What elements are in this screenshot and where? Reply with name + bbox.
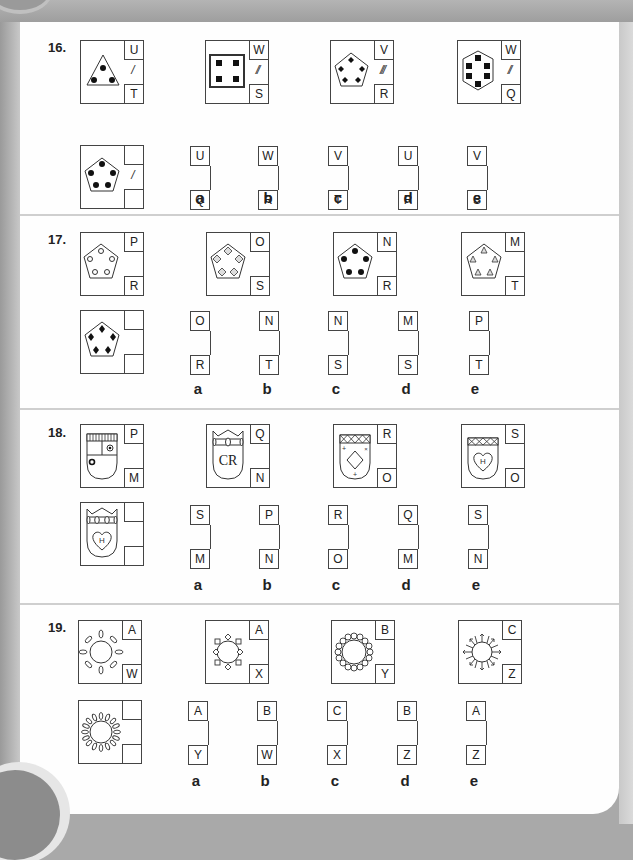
bottom-letter: N: [250, 468, 270, 488]
connector-line: [348, 331, 349, 355]
connector-line: [487, 166, 488, 190]
option-top-letter: P: [259, 505, 279, 525]
stroke-mark: //: [250, 63, 264, 77]
answer-option-e[interactable]: P T: [469, 311, 490, 375]
bottom-letter: W: [122, 664, 142, 684]
bottom-letter: Q: [501, 84, 521, 104]
option-bottom-letter: S: [328, 355, 348, 375]
target-figure: /: [80, 145, 144, 209]
section-divider: [20, 408, 619, 410]
answer-option-b[interactable]: N T: [259, 311, 280, 375]
connector-line: [277, 721, 278, 745]
connector-line: [348, 525, 349, 549]
missing-top-letter: [124, 502, 144, 522]
page-top-shadow: [0, 0, 633, 22]
question-figure: O S: [206, 232, 270, 296]
svg-text:+: +: [342, 445, 346, 452]
answer-option-a[interactable]: S M: [190, 505, 211, 569]
question-figure: U / T: [80, 40, 144, 104]
option-bottom-letter: T: [469, 355, 489, 375]
bottom-letter: Y: [375, 664, 395, 684]
option-bottom-letter: S: [398, 355, 418, 375]
bottom-letter: O: [505, 468, 525, 488]
missing-top-letter: [122, 700, 142, 720]
top-letter: W: [501, 40, 521, 60]
answer-option-b[interactable]: P N: [259, 505, 280, 569]
connector-line: [486, 721, 487, 745]
bottom-letter: Z: [502, 664, 522, 684]
option-label: a: [186, 772, 206, 789]
bottom-letter: T: [505, 276, 525, 296]
question-figure: P M: [80, 424, 144, 488]
question-number: 18.: [48, 425, 66, 440]
top-letter: U: [124, 40, 144, 60]
stroke-mark: /: [125, 63, 139, 77]
option-top-letter: O: [190, 311, 210, 331]
top-letter: Q: [250, 424, 270, 444]
question-figure: W // Q: [457, 40, 521, 104]
answer-option-d[interactable]: Q M: [398, 505, 419, 569]
option-top-letter: S: [190, 505, 210, 525]
question-figure: + × + R O: [333, 424, 397, 488]
connector-line: [278, 166, 279, 190]
option-bottom-letter: Z: [397, 745, 417, 765]
option-bottom-letter: Y: [188, 745, 208, 765]
option-label: a: [188, 576, 208, 593]
question-figure: H S O: [461, 424, 525, 488]
svg-text:+: +: [353, 471, 357, 478]
top-letter: P: [124, 232, 144, 252]
answer-option-e[interactable]: S N: [468, 505, 489, 569]
target-figure: [80, 310, 144, 374]
option-label: c: [326, 380, 346, 397]
bottom-letter: R: [377, 276, 397, 296]
answer-option-a[interactable]: O R: [190, 311, 211, 375]
worksheet-page: [20, 22, 619, 814]
top-letter: R: [377, 424, 397, 444]
answer-option-c[interactable]: N S: [328, 311, 349, 375]
option-bottom-letter: R: [190, 355, 210, 375]
section-divider: [20, 214, 619, 216]
answer-option-a[interactable]: A Y: [188, 701, 209, 765]
option-label: b: [258, 189, 278, 206]
option-bottom-letter: O: [328, 549, 348, 569]
option-top-letter: V: [467, 146, 487, 166]
stroke-mark: ///: [375, 63, 389, 77]
option-bottom-letter: M: [190, 549, 210, 569]
connector-line: [210, 166, 211, 190]
question-figure: A X: [205, 620, 269, 684]
option-bottom-letter: W: [257, 745, 277, 765]
option-label: e: [466, 576, 486, 593]
question-figure: W // S: [205, 40, 269, 104]
option-top-letter: M: [398, 311, 418, 331]
top-letter: W: [249, 40, 269, 60]
answer-option-d[interactable]: M S: [398, 311, 419, 375]
answer-option-d[interactable]: B Z: [397, 701, 418, 765]
option-label: c: [326, 576, 346, 593]
option-top-letter: R: [328, 505, 348, 525]
connector-line: [348, 166, 349, 190]
top-letter: O: [250, 232, 270, 252]
connector-line: [418, 166, 419, 190]
question-figure: M T: [461, 232, 525, 296]
option-label: d: [395, 772, 415, 789]
top-letter: A: [249, 620, 269, 640]
answer-option-c[interactable]: C X: [327, 701, 348, 765]
bottom-letter: R: [374, 84, 394, 104]
answer-option-e[interactable]: A Z: [466, 701, 487, 765]
answer-option-b[interactable]: B W: [257, 701, 278, 765]
missing-top-letter: [124, 145, 144, 165]
missing-top-letter: [124, 310, 144, 330]
option-label: d: [398, 189, 418, 206]
option-label: e: [464, 772, 484, 789]
missing-bottom-letter: [124, 546, 144, 566]
stroke-mark: //: [502, 63, 516, 77]
answer-option-c[interactable]: R O: [328, 505, 349, 569]
top-letter: S: [505, 424, 525, 444]
option-label: b: [257, 380, 277, 397]
connector-line: [210, 331, 211, 355]
option-label: d: [396, 380, 416, 397]
connector-line: [347, 721, 348, 745]
missing-bottom-letter: [122, 744, 142, 764]
option-bottom-letter: N: [259, 549, 279, 569]
option-top-letter: P: [469, 311, 489, 331]
